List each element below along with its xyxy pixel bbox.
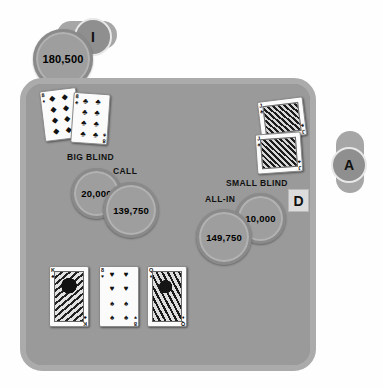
small-blind-label: SMALL BLIND (226, 178, 288, 188)
heart-icon: ♥ (110, 285, 115, 293)
card-pip-grid: ♣♣ ♣♣ ♣♣ ♣♣ (77, 97, 105, 140)
player-badge-label-right: A (344, 157, 354, 173)
dealer-button-label: D (293, 193, 303, 209)
club-icon: ♣ (80, 130, 86, 138)
community-card-1: K ♣ K ♣ (49, 266, 89, 327)
diamond-icon: ◆ (49, 95, 56, 104)
all-in-amount: 149,750 (206, 232, 242, 243)
club-icon: ♣ (82, 108, 88, 116)
all-in-label: ALL-IN (205, 194, 235, 204)
card-face-art (54, 271, 84, 322)
diamond-icon: ◆ (62, 104, 69, 113)
call-chip[interactable]: 139,750 (103, 182, 159, 238)
player-badge-right[interactable]: A (331, 147, 367, 183)
diamond-icon: ◆ (51, 116, 58, 125)
heart-icon: ♥ (110, 271, 115, 279)
spade-icon: ♠ (124, 300, 128, 308)
card-suit-icon: ♥ (101, 274, 104, 279)
card-corner-top: 8 ♥ (101, 268, 104, 279)
call-amount: 139,750 (113, 205, 149, 216)
poker-table-screen: I 180,500 8 ♦ 8 ♦ ◆◆ ◆◆ ◆◆ ◆◆ 8 ♣ 8 ♣ (0, 0, 383, 389)
diamond-icon: ◆ (64, 115, 71, 124)
spade-icon: ♠ (110, 300, 114, 308)
all-in-chip[interactable]: 149,750 (196, 209, 252, 265)
hole-card-top-left-2: 8 ♣ 8 ♣ ♣♣ ♣♣ ♣♣ ♣♣ (70, 92, 110, 145)
card-suit-icon: ♣ (102, 132, 106, 137)
heart-icon: ♥ (124, 285, 129, 293)
community-card-3: Q ♦ Q ♦ (147, 266, 187, 327)
card-suit-icon: ♥ (134, 315, 137, 320)
diamond-icon: ◆ (61, 93, 68, 102)
card-corner-bottom: 8 ♣ (102, 132, 106, 143)
big-blind-label: BIG BLIND (67, 152, 114, 162)
player-stack-amount-top-left: 180,500 (42, 53, 83, 65)
diamond-icon: ◆ (53, 127, 60, 136)
player-badge-label-top-left: I (91, 29, 95, 45)
card-face-art (262, 102, 301, 135)
small-blind-amount: 10,000 (245, 213, 275, 224)
community-card-2: 8 ♥ 8 ♥ ♥♥ ♥♥ ♠♠ ♠♠ (99, 266, 139, 327)
club-icon: ♣ (93, 131, 99, 139)
card-face-art (152, 271, 182, 322)
heart-icon: ♥ (124, 271, 129, 279)
hole-card-right-2: J ♣ J ♣ (255, 131, 304, 174)
dealer-button[interactable]: D (288, 189, 309, 212)
spade-icon: ♠ (110, 314, 114, 322)
diamond-icon: ◆ (50, 105, 57, 114)
card-pip-grid: ♥♥ ♥♥ ♠♠ ♠♠ (105, 271, 133, 322)
club-icon: ♣ (83, 97, 89, 105)
club-icon: ♣ (95, 98, 101, 106)
club-icon: ♣ (94, 109, 100, 117)
club-icon: ♣ (81, 119, 87, 127)
club-icon: ♣ (93, 120, 99, 128)
card-corner-bottom: 8 ♥ (134, 315, 137, 326)
spade-icon: ♠ (124, 314, 128, 322)
card-face-art (260, 137, 298, 169)
call-label: CALL (113, 166, 137, 176)
